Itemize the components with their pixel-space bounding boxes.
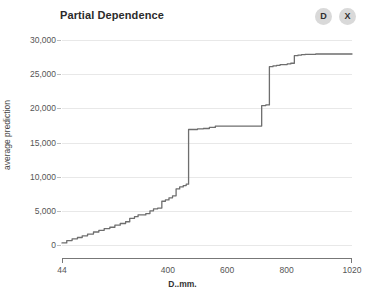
y-tick-label: 0 <box>51 240 56 250</box>
x-tick-label: 1020 <box>343 265 362 275</box>
y-tick-mark <box>57 245 61 246</box>
y-tick-mark <box>57 177 61 178</box>
y-tick-label: 15,000 <box>30 138 56 148</box>
x-axis-line <box>62 258 352 259</box>
plot-area: 05,00010,00015,00020,00025,00030,000 <box>62 40 352 245</box>
x-tick-label: 44 <box>57 265 66 275</box>
gridline <box>62 245 352 246</box>
x-tick-label: 600 <box>220 265 234 275</box>
y-tick-mark <box>57 74 61 75</box>
y-tick-label: 10,000 <box>30 172 56 182</box>
y-tick-label: 30,000 <box>30 35 56 45</box>
chart-root: Partial Dependence D X average predictio… <box>0 0 365 300</box>
y-tick-mark <box>57 143 61 144</box>
page-title: Partial Dependence <box>60 9 164 21</box>
series-line <box>62 40 352 245</box>
y-tick-mark <box>57 40 61 41</box>
y-tick-mark <box>57 211 61 212</box>
x-axis-cap-right <box>351 258 352 263</box>
y-axis-title: average prediction <box>2 100 12 170</box>
x-axis: 444006008001020 <box>62 258 352 259</box>
y-tick-label: 5,000 <box>35 206 56 216</box>
y-tick-label: 20,000 <box>30 103 56 113</box>
y-tick-label: 25,000 <box>30 69 56 79</box>
close-button[interactable]: X <box>339 8 356 25</box>
header-button-group: D X <box>315 8 356 25</box>
x-axis-cap-left <box>62 258 63 263</box>
duplicate-button[interactable]: D <box>315 8 332 25</box>
x-tick-label: 400 <box>161 265 175 275</box>
x-axis-title: D..mm. <box>0 279 365 289</box>
y-tick-mark <box>57 108 61 109</box>
x-tick-label: 800 <box>280 265 294 275</box>
